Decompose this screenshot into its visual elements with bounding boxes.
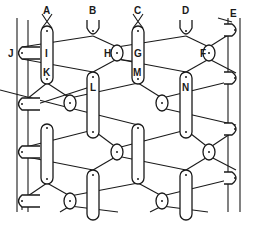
label-G: G — [134, 48, 142, 59]
pill-bottom-left — [87, 170, 99, 220]
label-D: D — [182, 5, 189, 16]
braid-diagram: A B C D E F G H I J K L M N — [0, 0, 253, 225]
label-N: N — [182, 82, 189, 93]
label-L: L — [90, 82, 96, 93]
pill-lower-mid — [132, 124, 144, 184]
label-H: H — [104, 48, 111, 59]
label-E: E — [230, 8, 237, 19]
label-J: J — [8, 48, 14, 59]
label-I: I — [45, 48, 48, 59]
pill-lower-left — [41, 124, 53, 184]
label-M: M — [133, 67, 141, 78]
label-K: K — [43, 67, 51, 78]
label-C: C — [134, 5, 141, 16]
label-F: F — [200, 48, 206, 59]
pill-bottom-right — [180, 170, 192, 220]
label-B: B — [89, 5, 96, 16]
label-A: A — [43, 5, 50, 16]
